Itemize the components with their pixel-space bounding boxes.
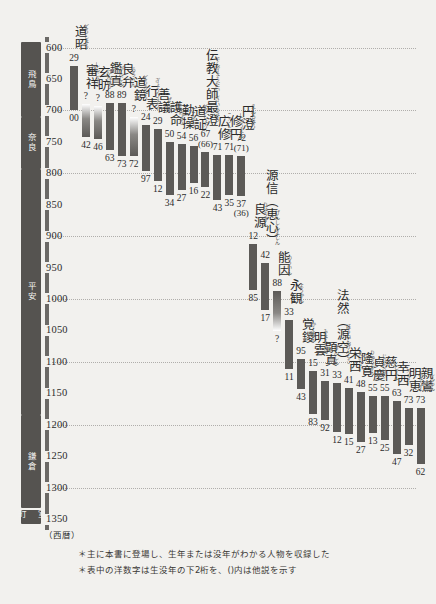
chart-footnotes: ＊主に本書に登場し、生年または没年がわかる人物を収録した＊表中の洋数字は生没年の… [78,546,408,578]
footnote-1: ＊主に本書に登場し、生年または没年がわかる人物を収録した [78,546,408,562]
person-column[interactable]: 7362親鸞しんらん [409,0,433,604]
birth-year-label: 73 [407,395,435,405]
footnote-2: ＊表中の洋数字は生没年の下2桁を、()内は他説を示す [78,562,408,578]
person-name-furigana: しんらん [426,371,435,393]
lifespan-bar[interactable] [417,408,425,464]
death-year-label: 62 [407,467,435,477]
